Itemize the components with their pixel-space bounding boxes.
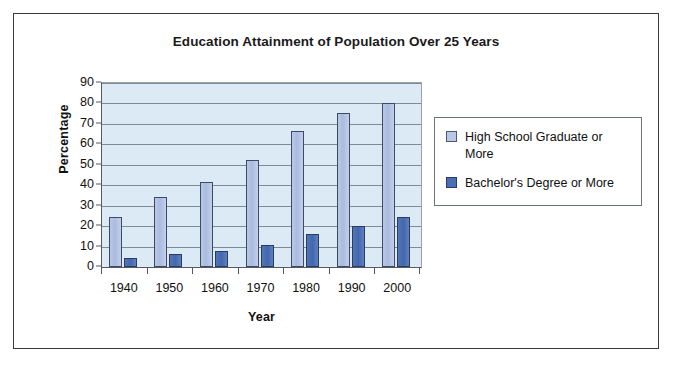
gridline: [102, 185, 421, 186]
gridline: [102, 83, 421, 84]
x-axis-tick-mark: [329, 268, 330, 274]
bar-1980-series-1: [291, 131, 304, 267]
y-axis-tick-label: 70: [80, 116, 94, 130]
x-axis-tick-label-1990: 1990: [338, 281, 366, 295]
y-axis-tick-label: 30: [80, 198, 94, 212]
bar-2000-series-1: [382, 103, 395, 267]
bar-1960-series-1: [200, 182, 213, 267]
bar-1980-series-2: [306, 234, 319, 267]
chart-title: Education Attainment of Population Over …: [14, 34, 658, 49]
y-axis-tick-mark: [96, 102, 101, 103]
legend-swatch-icon: [446, 177, 457, 188]
x-axis-tick-mark: [101, 268, 102, 274]
y-axis-tick-mark: [96, 266, 101, 267]
legend-label: High School Graduate or More: [465, 129, 631, 162]
bar-1970-series-1: [246, 160, 259, 267]
x-axis-tick-label-1950: 1950: [155, 281, 183, 295]
y-axis-tick-mark: [96, 204, 101, 205]
bar-1950-series-1: [154, 197, 167, 267]
plot-area: [101, 82, 422, 268]
y-axis-tick-label: 60: [80, 136, 94, 150]
gridline: [102, 226, 421, 227]
bar-1960-series-2: [215, 251, 228, 267]
gridline: [102, 103, 421, 104]
bar-1990-series-1: [337, 113, 350, 267]
y-axis-tick-mark: [96, 82, 101, 83]
y-axis-tick-label: 20: [80, 218, 94, 232]
gridline: [102, 124, 421, 125]
y-axis-title: Percentage: [57, 79, 71, 199]
y-axis-tick-mark: [96, 225, 101, 226]
gridline: [102, 165, 421, 166]
bar-1950-series-2: [169, 254, 182, 267]
bar-2000-series-2: [397, 217, 410, 267]
gridline: [102, 206, 421, 207]
x-axis-tick-label-1960: 1960: [201, 281, 229, 295]
x-axis-tick-label-1980: 1980: [292, 281, 320, 295]
bar-1990-series-2: [352, 226, 365, 268]
x-axis-title: Year: [101, 310, 422, 324]
y-axis-tick-mark: [96, 245, 101, 246]
legend-item-2: Bachelor's Degree or More: [446, 175, 631, 192]
bar-1940-series-2: [124, 258, 137, 267]
x-axis-tick-mark: [192, 268, 193, 274]
y-axis-tick-label: 50: [80, 157, 94, 171]
legend-swatch-icon: [446, 131, 457, 142]
y-axis-tick-mark: [96, 122, 101, 123]
bar-1970-series-2: [261, 245, 274, 267]
y-axis-tick-label: 80: [80, 95, 94, 109]
y-axis-tick-mark: [96, 184, 101, 185]
y-axis-tick-label: 90: [80, 75, 94, 89]
y-axis-tick-label: 40: [80, 177, 94, 191]
x-axis-tick-label-2000: 2000: [383, 281, 411, 295]
gridline: [102, 144, 421, 145]
x-axis-tick-mark: [283, 268, 284, 274]
plot-wrapper: 0102030405060708090194019501960197019801…: [101, 82, 422, 268]
y-axis-tick-mark: [96, 143, 101, 144]
y-axis-tick-label: 10: [80, 239, 94, 253]
y-axis-tick-mark: [96, 163, 101, 164]
legend-item-1: High School Graduate or More: [446, 129, 631, 162]
x-axis-tick-mark: [374, 268, 375, 274]
legend-label: Bachelor's Degree or More: [465, 175, 614, 192]
x-axis-tick-mark: [147, 268, 148, 274]
x-axis-tick-mark: [238, 268, 239, 274]
x-axis-tick-mark: [419, 268, 420, 274]
x-axis-tick-label-1970: 1970: [247, 281, 275, 295]
x-axis-tick-label-1940: 1940: [110, 281, 138, 295]
bar-1940-series-1: [109, 217, 122, 267]
chart-legend: High School Graduate or MoreBachelor's D…: [434, 117, 642, 206]
y-axis-tick-label: 0: [87, 259, 94, 273]
chart-page-frame: Education Attainment of Population Over …: [13, 13, 659, 349]
